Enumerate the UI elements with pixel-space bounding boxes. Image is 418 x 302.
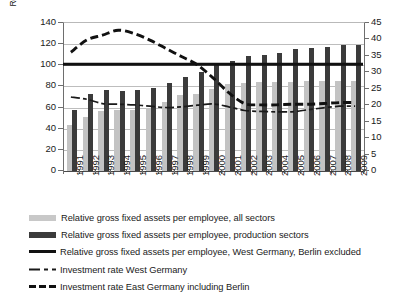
x-axis-tick-label: 1994 xyxy=(122,130,132,176)
legend-item[interactable]: Investment rate West Germany xyxy=(29,262,187,277)
x-axis-tick-label: 1999 xyxy=(201,130,211,176)
x-axis-tick-label: 1996 xyxy=(154,130,164,176)
x-axis-tick-label: 1995 xyxy=(138,130,148,176)
legend-item-label: Investment rate East Germany including B… xyxy=(60,282,249,292)
legend-item[interactable]: Relative gross fixed assets per employee… xyxy=(29,244,361,259)
x-axis-tick-label: 2006 xyxy=(312,130,322,176)
x-axis-tick-label: 2004 xyxy=(280,130,290,176)
x-axis-tick-label: 2002 xyxy=(249,130,259,176)
legend-item-label: Investment rate West Germany xyxy=(60,265,187,275)
legend-item[interactable]: Relative gross fixed assets per employee… xyxy=(29,227,309,242)
chart-plot-region: Relative gross fixed assets per empoyee … xyxy=(0,0,418,205)
x-axis-tick-label: 1998 xyxy=(185,130,195,176)
legend-item-label: Relative gross fixed assets per employee… xyxy=(61,230,309,240)
x-axis-tick-label: 1991 xyxy=(75,130,85,176)
legend-line-west-germany xyxy=(29,265,56,274)
chart-legend: Relative gross fixed assets per employee… xyxy=(0,205,418,302)
x-axis-tick-label: 2005 xyxy=(296,130,306,176)
legend-item[interactable]: Investment rate East Germany including B… xyxy=(29,279,249,294)
x-axis-tick-label: 2001 xyxy=(233,130,243,176)
x-axis-tick-label: 2003 xyxy=(264,130,274,176)
legend-swatch-production-sectors xyxy=(29,232,56,238)
x-axis-tick-label: 2007 xyxy=(328,130,338,176)
legend-line-east-germany xyxy=(29,282,56,291)
x-axis-tick-label: 2009 xyxy=(359,130,369,176)
x-axis-tick-label: 1997 xyxy=(170,130,180,176)
legend-item[interactable]: Relative gross fixed assets per employee… xyxy=(29,210,275,225)
legend-swatch-all-sectors xyxy=(29,215,56,221)
x-axis-tick-mark xyxy=(63,170,64,174)
legend-line-reference xyxy=(29,247,56,256)
x-axis-labels: 1991199219931994199519961997199819992000… xyxy=(0,0,418,205)
legend-item-label: Relative gross fixed assets per employee… xyxy=(60,247,361,257)
x-axis-tick-label: 1992 xyxy=(91,130,101,176)
x-axis-tick-label: 2008 xyxy=(343,130,353,176)
legend-item-label: Relative gross fixed assets per employee… xyxy=(61,213,275,223)
chart-figure: Relative gross fixed assets per empoyee … xyxy=(0,0,418,302)
x-axis-tick-label: 1993 xyxy=(106,130,116,176)
x-axis-tick-label: 2000 xyxy=(217,130,227,176)
